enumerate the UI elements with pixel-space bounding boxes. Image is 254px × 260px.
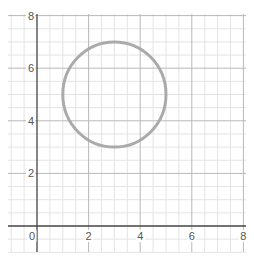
y-tick-label: 4 [28, 115, 34, 127]
x-tick-label: 6 [189, 230, 195, 242]
y-tick-label: 6 [28, 62, 34, 74]
x-tick-label: 0 [29, 230, 35, 242]
x-tick-label: 8 [240, 230, 246, 242]
minor-grid [8, 14, 246, 252]
y-tick-label: 8 [28, 10, 34, 22]
tick-labels: 024682468 [26, 10, 248, 242]
coordinate-plane: 024682468 [0, 0, 254, 260]
x-tick-label: 2 [86, 230, 92, 242]
x-tick-label: 4 [137, 230, 143, 242]
y-tick-label: 2 [28, 167, 34, 179]
